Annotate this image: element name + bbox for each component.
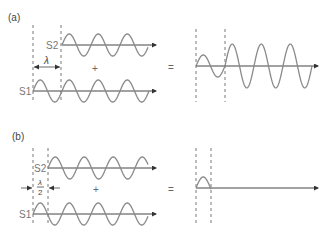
panel-b-source-s1: S1 — [19, 203, 156, 225]
panel-a: (a) S2 λ + S1 = — [8, 12, 318, 103]
panel-b-label: (b) — [12, 131, 24, 142]
interference-diagram: (a) S2 λ + S1 = — [0, 0, 330, 232]
equals-sign: = — [168, 184, 174, 195]
panel-b: (b) S2 λ 2 + S1 = — [12, 131, 318, 226]
lambda-denominator: 2 — [38, 188, 43, 197]
lambda-label: λ — [43, 55, 49, 66]
plus-sign: + — [93, 184, 99, 195]
panel-b-source-s2: S2 — [34, 157, 156, 179]
source-label-s1: S1 — [19, 86, 32, 97]
plus-sign: + — [92, 63, 98, 74]
lambda-numerator: λ — [37, 178, 42, 187]
equals-sign: = — [168, 62, 174, 73]
panel-a-label: (a) — [8, 12, 20, 23]
panel-a-source-s2: S2 — [46, 34, 156, 56]
source-label-s2: S2 — [46, 40, 59, 51]
source-label-s1: S1 — [19, 209, 32, 220]
wavelength-dimension: λ — [34, 55, 60, 67]
source-label-s2: S2 — [34, 163, 47, 174]
panel-a-result — [196, 29, 318, 102]
half-wavelength-dimension: λ 2 — [21, 178, 60, 197]
destructive-sum-wave — [196, 177, 211, 189]
panel-b-result — [196, 148, 318, 226]
panel-a-source-s1: S1 — [19, 80, 156, 102]
